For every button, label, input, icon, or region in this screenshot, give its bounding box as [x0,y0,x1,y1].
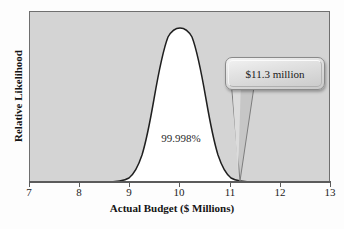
x-tick-label-13: 13 [315,186,344,198]
x-tick-label-8: 8 [64,186,94,198]
x-tick-label-9: 9 [114,186,144,198]
x-tick-label-12: 12 [265,186,295,198]
x-axis-line [29,181,331,183]
y-axis-title: Relative Likelihood [12,16,24,176]
budget-callout-box[interactable]: $11.3 million [225,57,325,90]
x-tick-label-10: 10 [164,186,194,198]
x-tick-label-11: 11 [215,186,245,198]
callout-pointer-stem [225,80,330,183]
callout-label: $11.3 million [246,68,305,80]
x-axis-title: Actual Budget ($ Millions) [0,202,344,214]
chart-figure: $11.3 million 99.998% 7 8 9 10 11 12 13 … [0,0,344,229]
x-tick-label-7: 7 [14,186,44,198]
confidence-percent-label: 99.998% [136,132,226,144]
